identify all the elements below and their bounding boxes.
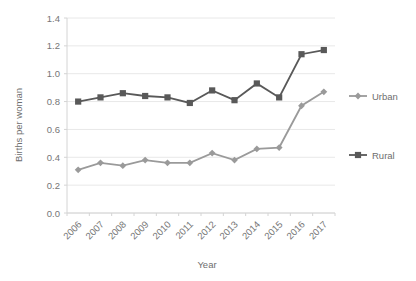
y-tick-label: 1.2 (47, 40, 60, 51)
x-tick-label-2006: 2006 (61, 219, 84, 242)
y-tick-label: 1.0 (47, 68, 60, 79)
x-tick-label-2008: 2008 (106, 219, 129, 242)
data-point-rural-2008 (120, 90, 126, 96)
x-tick-label-2007: 2007 (83, 219, 106, 242)
data-point-urban-2014 (253, 146, 260, 153)
y-axis-tick-labels: 0.00.20.40.60.81.01.21.4 (47, 13, 60, 219)
x-tick-label-2010: 2010 (150, 219, 173, 242)
series-line-urban (78, 92, 324, 170)
x-axis-title: Year (197, 259, 216, 270)
data-point-rural-2017 (321, 47, 327, 53)
data-point-rural-2016 (298, 51, 304, 57)
y-tick-label: 0.6 (47, 124, 60, 135)
data-point-rural-2006 (75, 98, 81, 104)
data-point-urban-2012 (209, 150, 216, 157)
data-point-rural-2015 (276, 94, 282, 100)
gridlines-group (67, 18, 335, 213)
data-point-rural-2010 (164, 94, 170, 100)
x-tick-label-2014: 2014 (240, 219, 263, 242)
data-point-urban-2006 (75, 166, 82, 173)
data-point-urban-2010 (164, 159, 171, 166)
x-tick-label-2017: 2017 (307, 219, 330, 242)
x-axis-tick-labels: 2006200720082009201020112012201320142015… (61, 219, 329, 242)
legend-marker-square-rural (355, 152, 361, 158)
series-rural (75, 47, 327, 106)
legend-item-rural[interactable]: Rural (349, 150, 395, 161)
data-series-group (75, 47, 327, 173)
x-tick-label-2009: 2009 (128, 219, 151, 242)
axis-lines-group (67, 18, 335, 213)
y-tick-label: 0.8 (47, 96, 60, 107)
x-tick-label-2015: 2015 (262, 219, 285, 242)
chart-legend: UrbanRural (349, 91, 398, 161)
tick-marks-group (64, 18, 335, 216)
legend-label-rural: Rural (372, 150, 395, 161)
births-per-woman-line-chart: 0.00.20.40.60.81.01.21.4 200620072008200… (0, 0, 416, 281)
data-point-urban-2015 (276, 144, 283, 151)
data-point-rural-2014 (254, 80, 260, 86)
legend-label-urban: Urban (372, 91, 398, 102)
x-tick-label-2016: 2016 (284, 219, 307, 242)
data-point-rural-2009 (142, 93, 148, 99)
data-point-urban-2007 (97, 159, 104, 166)
chart-container: 0.00.20.40.60.81.01.21.4 200620072008200… (0, 0, 416, 281)
y-tick-label: 0.0 (47, 208, 60, 219)
legend-marker-diamond-urban (355, 93, 362, 100)
legend-item-urban[interactable]: Urban (349, 91, 398, 102)
data-point-rural-2012 (209, 87, 215, 93)
y-tick-label: 1.4 (47, 13, 60, 24)
series-line-rural (78, 50, 324, 103)
data-point-rural-2007 (97, 94, 103, 100)
data-point-rural-2013 (231, 97, 237, 103)
y-tick-label: 0.4 (47, 152, 60, 163)
data-point-urban-2008 (119, 162, 126, 169)
y-axis-title: Births per woman (13, 88, 24, 162)
data-point-rural-2011 (187, 100, 193, 106)
x-tick-label-2013: 2013 (217, 219, 240, 242)
y-tick-label: 0.2 (47, 180, 60, 191)
x-tick-label-2012: 2012 (195, 219, 218, 242)
data-point-urban-2011 (186, 159, 193, 166)
x-tick-label-2011: 2011 (173, 219, 195, 241)
